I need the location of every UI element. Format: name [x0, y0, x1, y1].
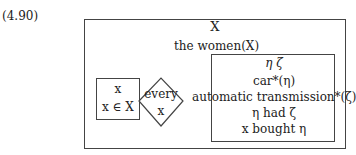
quantifier-variable: x [139, 104, 183, 118]
outer-condition: the women(X) [174, 39, 259, 53]
quantifier-diamond [138, 77, 186, 129]
scope-referents: η ζ [192, 56, 356, 70]
scope-condition: x bought η [192, 122, 356, 136]
restrictor-condition: x ∈ X [97, 100, 139, 114]
quantifier-determiner: every [139, 87, 183, 101]
scope-condition: car*(η) [192, 74, 356, 88]
scope-condition: automatic transmission*(ζ) [192, 90, 356, 104]
example-number: (4.90) [2, 9, 38, 23]
outer-discourse-referent: X [85, 19, 345, 34]
restrictor-box: x x ∈ X [96, 78, 140, 120]
restrictor-referent: x [97, 82, 139, 96]
scope-box: η ζ car*(η) automatic transmission*(ζ) η… [211, 54, 335, 142]
scope-condition: η had ζ [192, 106, 356, 120]
